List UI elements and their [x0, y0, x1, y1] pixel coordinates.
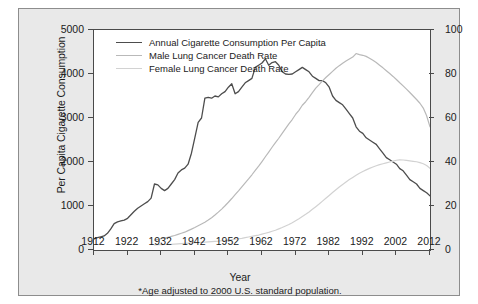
x-axis-tick-label: 1992 [350, 235, 373, 247]
y-axis-left-tick-label: 3000 [61, 111, 84, 123]
y-axis-left-tick-label: 2000 [61, 155, 84, 167]
x-axis-tick [362, 250, 363, 255]
legend-item: Annual Cigarette Consumption Per Capita [116, 36, 326, 49]
y-axis-right-tick-label: 40 [445, 155, 457, 167]
y-axis-right-tick [429, 73, 434, 74]
x-axis-tick [160, 250, 161, 255]
legend-swatch-female-icon [116, 68, 142, 69]
x-axis-tick [395, 250, 396, 255]
chart-footnote: *Age adjusted to 2000 U.S. standard popu… [19, 285, 461, 296]
legend-item: Male Lung Cancer Death Rate [116, 49, 326, 62]
y-axis-right-tick [429, 205, 434, 206]
legend-label: Female Lung Cancer Death Rate [149, 63, 288, 74]
y-axis-left-tick-label: 4000 [61, 67, 84, 79]
y-axis-left-tick-label: 1000 [61, 199, 84, 211]
series-line [154, 160, 430, 245]
legend-swatch-consumption-icon [116, 42, 142, 43]
x-axis-tick-label: 2002 [384, 235, 407, 247]
series-line [154, 54, 430, 241]
y-axis-left-tick-label: 5000 [61, 23, 84, 35]
x-axis-tick-label: 2012 [417, 235, 440, 247]
x-axis-tick-label: 1982 [317, 235, 340, 247]
chart-figure: Per Capita Cigarette Consumption Age-Adj… [0, 0, 478, 304]
y-axis-right-tick-label: 0 [445, 243, 451, 255]
y-axis-right-tick [429, 29, 434, 30]
y-axis-left-tick [88, 117, 93, 118]
y-axis-left-tick [88, 161, 93, 162]
y-axis-right-tick [429, 161, 434, 162]
legend-item: Female Lung Cancer Death Rate [116, 62, 326, 75]
y-axis-right-tick [429, 117, 434, 118]
y-axis-right-tick-label: 20 [445, 199, 457, 211]
y-axis-left-tick [88, 29, 93, 30]
x-axis-tick [93, 250, 94, 255]
legend-label: Annual Cigarette Consumption Per Capita [149, 37, 326, 48]
x-axis-title: Year [19, 271, 461, 283]
x-axis-tick-label: 1922 [115, 235, 138, 247]
y-axis-right-tick-label: 60 [445, 111, 457, 123]
x-axis-tick [429, 250, 430, 255]
chart-legend: Annual Cigarette Consumption Per CapitaM… [116, 36, 326, 75]
chart-panel: Per Capita Cigarette Consumption Age-Adj… [18, 8, 460, 296]
x-axis-tick [227, 250, 228, 255]
x-axis-tick-label: 1932 [149, 235, 172, 247]
x-axis-tick [127, 250, 128, 255]
x-axis-tick-label: 1952 [216, 235, 239, 247]
plot-area: Annual Cigarette Consumption Per CapitaM… [93, 29, 431, 251]
y-axis-left-tick [88, 73, 93, 74]
x-axis-tick [194, 250, 195, 255]
legend-swatch-male-icon [116, 55, 142, 56]
x-axis-tick-label: 1972 [283, 235, 306, 247]
x-axis-tick [328, 250, 329, 255]
y-axis-left-tick [88, 205, 93, 206]
series-line [94, 59, 430, 239]
x-axis-tick-label: 1912 [81, 235, 104, 247]
x-axis-tick [295, 250, 296, 255]
y-axis-right-tick-label: 80 [445, 67, 457, 79]
x-axis-tick-label: 1942 [182, 235, 205, 247]
legend-label: Male Lung Cancer Death Rate [149, 50, 277, 61]
x-axis-tick [261, 250, 262, 255]
x-axis-tick-label: 1962 [249, 235, 272, 247]
y-axis-right-tick-label: 100 [445, 23, 463, 35]
